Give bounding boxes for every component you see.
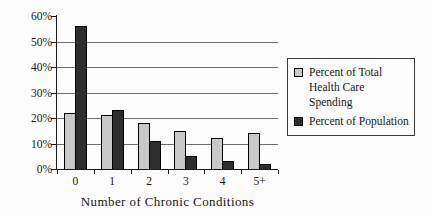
x-tick-label-1: 1 [94, 175, 131, 187]
bar-population-0 [75, 26, 87, 169]
x-tick-0 [57, 170, 58, 174]
y-tick-label-10: 10% [18, 138, 52, 150]
x-tick-6 [278, 170, 279, 174]
x-tick-label-3: 3 [167, 175, 204, 187]
x-axis-labels: 012345+ [57, 175, 278, 187]
x-tick-4 [204, 170, 205, 174]
bar-population-1 [112, 110, 124, 169]
category-group-0 [57, 16, 94, 169]
plot-area [57, 16, 278, 169]
x-tick-label-2: 2 [131, 175, 168, 187]
bars-container [57, 16, 278, 169]
x-tick-3 [168, 170, 169, 174]
y-tick-label-40: 40% [18, 61, 52, 73]
legend-item-spending: Percent of Total Health Care Spending [294, 65, 410, 111]
x-tick-label-0: 0 [57, 175, 94, 187]
bar-population-2 [149, 141, 161, 169]
y-tick-label-30: 30% [18, 87, 52, 99]
bar-chart: 0%10%20%30%40%50%60% 012345+ Number of C… [0, 0, 433, 216]
x-tick-5 [241, 170, 242, 174]
spending-swatch-icon [294, 68, 303, 77]
y-tick-label-60: 60% [18, 10, 52, 22]
category-group-2 [131, 16, 168, 169]
category-group-4 [204, 16, 241, 169]
x-axis-title: Number of Chronic Conditions [57, 194, 278, 210]
bar-population-4 [222, 161, 234, 169]
legend-item-population: Percent of Population [294, 114, 410, 129]
y-tick-label-50: 50% [18, 36, 52, 48]
x-tick-label-4: 4 [204, 175, 241, 187]
x-tick-2 [131, 170, 132, 174]
legend: Percent of Total Health Care Spending Pe… [287, 58, 415, 136]
bar-population-3 [185, 156, 197, 169]
x-tick-label-5+: 5+ [241, 175, 278, 187]
category-group-3 [167, 16, 204, 169]
y-tick-label-0: 0% [18, 163, 52, 175]
legend-label-population: Percent of Population [309, 114, 410, 129]
category-group-1 [94, 16, 131, 169]
category-group-5+ [241, 16, 278, 169]
population-swatch-icon [294, 117, 303, 126]
y-tick-label-20: 20% [18, 112, 52, 124]
legend-label-spending: Percent of Total Health Care Spending [309, 65, 410, 111]
x-tick-1 [94, 170, 95, 174]
